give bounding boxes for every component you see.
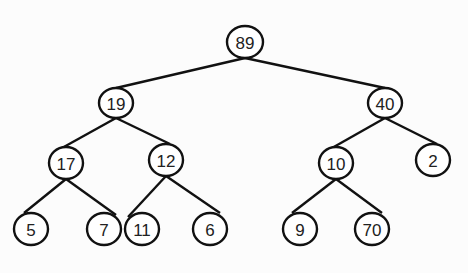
- tree-node-12: 12: [149, 144, 183, 176]
- node-label: 11: [133, 221, 151, 240]
- edge-n17-n5: [24, 179, 66, 213]
- node-label: 89: [236, 34, 255, 53]
- nodes-layer: 891940171210257116970: [14, 26, 450, 245]
- node-label: 10: [327, 155, 346, 174]
- node-label: 2: [428, 152, 437, 171]
- tree-node-89: 89: [227, 26, 263, 58]
- node-label: 17: [57, 155, 76, 174]
- node-label: 5: [26, 221, 35, 240]
- node-label: 12: [157, 152, 176, 171]
- node-label: 7: [99, 221, 108, 240]
- tree-node-2: 2: [416, 144, 450, 176]
- edge-n89-n19: [116, 58, 245, 88]
- node-label: 6: [205, 221, 214, 240]
- tree-node-40: 40: [368, 88, 402, 118]
- node-label: 19: [107, 95, 126, 114]
- edge-n19-n17: [62, 118, 116, 148]
- edge-n12-n6: [166, 176, 220, 213]
- tree-node-5: 5: [14, 213, 48, 245]
- tree-node-9: 9: [283, 213, 317, 245]
- tree-svg: 891940171210257116970: [0, 0, 468, 273]
- edge-n89-n40: [245, 58, 385, 88]
- tree-diagram: 891940171210257116970: [0, 0, 468, 273]
- tree-node-70: 70: [355, 213, 389, 245]
- edge-n40-n10: [332, 118, 385, 148]
- tree-node-7: 7: [87, 213, 121, 245]
- tree-node-17: 17: [49, 147, 83, 179]
- tree-node-6: 6: [193, 213, 227, 245]
- edge-n17-n7: [66, 179, 116, 215]
- edge-n19-n12: [116, 118, 170, 144]
- edge-n12-n11: [128, 176, 166, 217]
- tree-node-11: 11: [125, 213, 159, 245]
- node-label: 40: [376, 95, 395, 114]
- tree-node-10: 10: [319, 147, 353, 179]
- edge-n10-n9: [292, 179, 336, 213]
- node-label: 70: [363, 221, 382, 240]
- edges-layer: [24, 58, 437, 217]
- edge-n10-n70: [336, 179, 382, 213]
- tree-node-19: 19: [99, 88, 133, 118]
- node-label: 9: [295, 221, 304, 240]
- edge-n40-n2: [385, 118, 437, 144]
